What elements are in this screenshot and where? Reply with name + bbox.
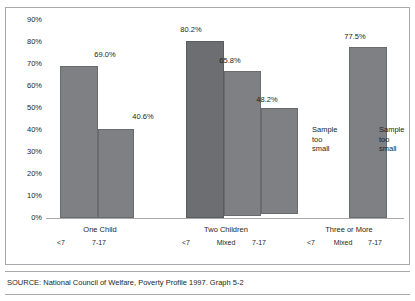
group-label-two-children: Two Children bbox=[186, 225, 266, 234]
suppressed-label-three-or-more-7to17: Sample too small bbox=[379, 125, 404, 154]
y-tick-label-30: 30% bbox=[8, 147, 42, 156]
bar-value-two-children-7to17: 48.2% bbox=[246, 95, 288, 104]
sublabel-two-children-under7: <7 bbox=[171, 239, 201, 246]
bar-value-three-or-more-mixed: 77.5% bbox=[334, 32, 376, 41]
suppressed-line-3: small bbox=[379, 144, 404, 154]
clipped-title-strip bbox=[0, 0, 415, 7]
source-divider-top bbox=[5, 271, 410, 272]
suppressed-line-3: small bbox=[312, 144, 337, 154]
y-tick-label-70: 70% bbox=[8, 59, 42, 68]
y-tick-label-20: 20% bbox=[8, 169, 42, 178]
sublabel-three-or-more-under7: <7 bbox=[296, 239, 326, 246]
bar-one-child-under7[interactable] bbox=[60, 66, 98, 218]
sublabel-one-child-under7: <7 bbox=[46, 239, 76, 246]
bar-value-one-child-7to17: 40.6% bbox=[122, 112, 164, 121]
suppressed-label-three-or-more-under7: Sample too small bbox=[312, 125, 337, 154]
source-note: SOURCE: National Council of Welfare, Pov… bbox=[7, 278, 244, 287]
x-axis-baseline bbox=[46, 218, 404, 219]
group-label-three-or-more: Three or More bbox=[309, 225, 389, 234]
suppressed-line-2: too bbox=[312, 135, 337, 145]
y-tick-label-50: 50% bbox=[8, 103, 42, 112]
suppressed-line-1: Sample bbox=[312, 125, 337, 135]
sublabel-one-child-7to17: 7-17 bbox=[84, 239, 114, 246]
y-tick-label-10: 10% bbox=[8, 191, 42, 200]
plot-area: 69.0% 40.6% 80.2% 65.8% 48.2% Sample too… bbox=[46, 20, 406, 218]
y-tick-label-60: 60% bbox=[8, 81, 42, 90]
bar-two-children-under7[interactable] bbox=[186, 41, 224, 218]
y-tick-label-80: 80% bbox=[8, 37, 42, 46]
y-tick-label-40: 40% bbox=[8, 125, 42, 134]
sublabel-two-children-7to17: 7-17 bbox=[244, 239, 274, 246]
sublabel-two-children-mixed: Mixed bbox=[209, 239, 243, 246]
bar-value-two-children-under7: 80.2% bbox=[170, 25, 212, 34]
bar-value-one-child-under7: 69.0% bbox=[84, 50, 126, 59]
group-label-one-child: One Child bbox=[60, 225, 140, 234]
bar-one-child-7to17[interactable] bbox=[98, 129, 134, 218]
source-divider-bottom bbox=[5, 294, 410, 295]
sublabel-three-or-more-7to17: 7-17 bbox=[360, 239, 390, 246]
bar-two-children-7to17[interactable] bbox=[261, 108, 298, 214]
chart-panel: 90% 80% 70% 60% 50% 40% 30% 20% 10% 0% 6… bbox=[5, 7, 410, 265]
sublabel-three-or-more-mixed: Mixed bbox=[326, 239, 360, 246]
chart-figure: 90% 80% 70% 60% 50% 40% 30% 20% 10% 0% 6… bbox=[0, 0, 415, 301]
bar-value-two-children-mixed: 65.8% bbox=[209, 56, 251, 65]
bar-two-children-mixed[interactable] bbox=[224, 71, 261, 216]
suppressed-line-2: too bbox=[379, 135, 404, 145]
y-tick-label-0: 0% bbox=[8, 213, 42, 222]
y-tick-label-90: 90% bbox=[8, 15, 42, 24]
suppressed-line-1: Sample bbox=[379, 125, 404, 135]
